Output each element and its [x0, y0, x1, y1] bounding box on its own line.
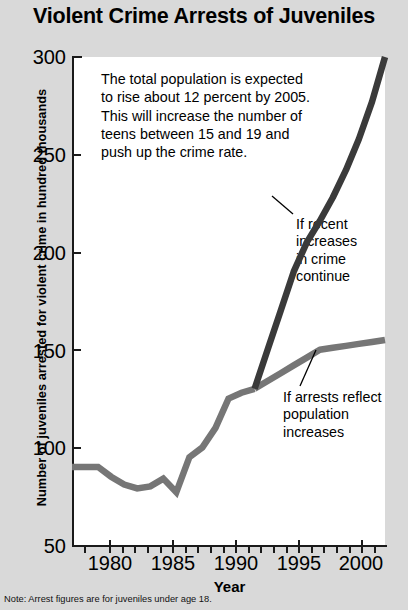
x-tick-mark: [134, 545, 136, 553]
annotation-line: push up the crime rate.: [101, 143, 351, 161]
series-label-population-line: increases: [283, 424, 401, 441]
annotation-line: teens between 15 and 19 and: [101, 125, 351, 143]
y-tick-mark: [72, 154, 81, 156]
x-tick-mark: [147, 545, 149, 553]
x-tick-mark: [323, 545, 325, 553]
y-tick-mark: [72, 56, 81, 58]
y-tick-label-250: 250: [18, 145, 66, 165]
x-axis-line: [72, 545, 387, 547]
series-label-crime-line: increases: [296, 233, 396, 250]
x-tick-mark: [273, 545, 275, 553]
x-tick-mark: [84, 545, 86, 553]
x-tick-mark: [197, 545, 199, 553]
series-label-crime-line: continue: [296, 268, 396, 285]
y-tick-mark: [72, 252, 81, 254]
chart-page: Violent Crime Arrests of Juveniles Numbe…: [0, 0, 408, 610]
x-tick-label-2000: 2000: [321, 553, 401, 573]
x-axis-title: Year: [72, 578, 387, 595]
y-tick-label-100: 100: [18, 438, 66, 458]
annotation-line: to rise about 12 percent by 2005.: [101, 88, 351, 106]
annotation-line: The total population is expected: [101, 70, 351, 88]
y-tick-mark: [72, 349, 81, 351]
x-tick-mark: [336, 545, 338, 553]
annotation-text: The total population is expected to rise…: [101, 70, 351, 161]
annotation-line: This will increase the number of: [101, 107, 351, 125]
y-tick-label-150: 150: [18, 341, 66, 361]
y-tick-mark: [72, 447, 81, 449]
series-label-crime: If recent increases in crime continue: [296, 216, 396, 286]
series-label-crime-line: If recent: [296, 216, 396, 233]
footnote: Note: Arrest figures are for juveniles u…: [4, 594, 404, 604]
series-label-crime-line: in crime: [296, 251, 396, 268]
y-tick-label-200: 200: [18, 243, 66, 263]
x-tick-mark: [260, 545, 262, 553]
x-tick-mark: [210, 545, 212, 553]
series-label-population-line: If arrests reflect: [283, 389, 401, 406]
y-tick-label-300: 300: [18, 47, 66, 67]
series-label-population: If arrests reflect population increases: [283, 389, 401, 441]
series-label-population-line: population: [283, 406, 401, 423]
y-tick-label-50: 50: [18, 536, 66, 556]
page-title: Violent Crime Arrests of Juveniles: [0, 4, 408, 29]
y-axis-title: Number of juveniles arrested for violent…: [34, 63, 49, 533]
